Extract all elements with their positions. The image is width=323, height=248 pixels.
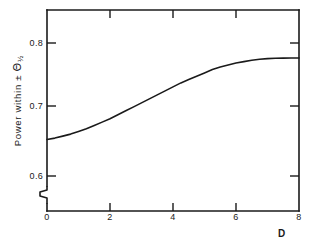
axis-frame	[47, 10, 299, 211]
y-tick-marks-right	[290, 43, 299, 176]
chart-figure: Power within ± Θ½ 0.8 0.7 0.6 0 2 4 6 8 …	[0, 0, 323, 248]
data-series-line	[47, 58, 299, 139]
y-tick-marks-left	[47, 43, 56, 176]
plot-area	[0, 0, 323, 248]
x-tick-marks-top	[110, 10, 236, 18]
x-tick-marks-bottom	[110, 203, 236, 211]
y-axis-break-mark	[40, 186, 47, 204]
